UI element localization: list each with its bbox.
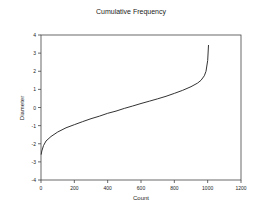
y-tick-label: 4 [33, 32, 36, 38]
x-tick-label: 200 [70, 185, 79, 191]
y-tick-label: -4 [32, 177, 37, 183]
y-tick-label: 1 [33, 86, 36, 92]
x-axis-label: Count [133, 195, 149, 201]
x-axis: 020040060080010001200 [40, 180, 247, 191]
plot-frame [41, 35, 241, 180]
y-tick-label: -1 [32, 123, 37, 129]
y-tick-label: -2 [32, 141, 37, 147]
cumulative-curve [41, 45, 208, 155]
x-tick-label: 600 [137, 185, 146, 191]
y-tick-label: -3 [32, 159, 37, 165]
x-tick-label: 1000 [202, 185, 213, 191]
y-axis: -4-3-2-101234 [32, 32, 41, 183]
x-tick-label: 1200 [235, 185, 246, 191]
y-axis-label: Diameter [19, 96, 25, 120]
x-tick-label: 400 [103, 185, 112, 191]
x-tick-label: 800 [170, 185, 179, 191]
x-tick-label: 0 [40, 185, 43, 191]
y-tick-label: 3 [33, 50, 36, 56]
y-tick-label: 0 [33, 105, 36, 111]
chart-title: Cumulative Frequency [96, 8, 167, 16]
cumulative-frequency-chart: Cumulative Frequency -4-3-2-101234 02004… [0, 0, 263, 218]
y-tick-label: 2 [33, 68, 36, 74]
